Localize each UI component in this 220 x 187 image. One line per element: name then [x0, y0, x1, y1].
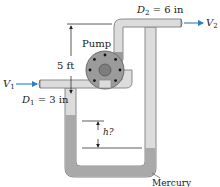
height-label: 5 ft	[57, 60, 74, 71]
manometer-height-label: h?	[103, 127, 114, 137]
mercury-fill	[66, 115, 156, 177]
manometer-u-tube	[65, 27, 156, 177]
inlet-velocity-label: V1	[3, 78, 15, 91]
mercury-label: Mercury	[152, 178, 192, 187]
inlet-diameter-label: D1 = 3 in	[21, 94, 69, 107]
pump-hub	[99, 64, 111, 76]
pump	[86, 51, 124, 89]
pump-manometer-diagram: 5 ft Pump D2 = 6 in V2 V1 D1 = 3 in h? M…	[0, 0, 220, 187]
pump-label: Pump	[82, 38, 111, 49]
manometer-height-dimension: h?	[82, 121, 142, 148]
outlet-diameter-label: D2 = 6 in	[136, 4, 184, 17]
outlet-velocity-label: V2	[206, 17, 218, 30]
